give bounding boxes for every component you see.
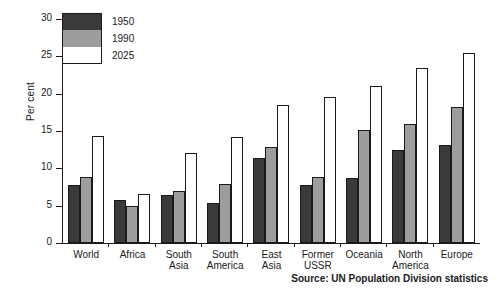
bar-1950 <box>392 150 404 243</box>
bar-2025 <box>324 97 336 243</box>
x-axis-label: Europe <box>434 249 480 271</box>
y-tick: 20 <box>56 94 62 95</box>
bar-1950 <box>207 203 219 243</box>
y-tick: 0 <box>56 243 62 244</box>
x-tick <box>201 243 202 247</box>
legend-label: 1950 <box>112 16 134 27</box>
legend-label: 1990 <box>112 33 134 44</box>
y-tick-label: 10 <box>41 161 52 172</box>
x-axis-label: Former USSR <box>295 249 341 271</box>
x-tick <box>386 243 387 247</box>
y-tick-label: 0 <box>46 236 52 247</box>
bar-group <box>341 19 387 243</box>
bar-1990 <box>404 124 416 243</box>
bar-1990 <box>126 206 138 243</box>
x-axis-label: Africa <box>109 249 155 271</box>
y-tick-label: 15 <box>41 124 52 135</box>
bar-group <box>295 19 341 243</box>
x-tick <box>294 243 295 247</box>
bar-group <box>248 19 294 243</box>
y-tick-label: 25 <box>41 49 52 60</box>
x-tick <box>155 243 156 247</box>
bar-1950 <box>253 158 265 243</box>
bar-1990 <box>219 184 231 243</box>
bar-2025 <box>416 68 428 243</box>
x-axis-labels: WorldAfricaSouth AsiaSouth AmericaEast A… <box>63 249 480 271</box>
bar-1950 <box>68 185 80 243</box>
bar-2025 <box>138 194 150 243</box>
bar-group <box>156 19 202 243</box>
source-note: Source: UN Population Division statistic… <box>291 273 488 284</box>
y-tick-label: 30 <box>41 12 52 23</box>
bar-group <box>434 19 480 243</box>
bar-1990 <box>312 177 324 243</box>
x-axis-label: North America <box>387 249 433 271</box>
x-axis-label: Oceania <box>341 249 387 271</box>
bar-group <box>202 19 248 243</box>
chart-figure: Per cent 051015202530 WorldAfricaSouth A… <box>0 0 496 292</box>
x-axis-label: South Asia <box>156 249 202 271</box>
bar-1950 <box>161 195 173 243</box>
legend-swatch-1990 <box>62 30 102 47</box>
legend-item: 1990 <box>62 30 134 47</box>
bar-1990 <box>173 191 185 243</box>
bar-1950 <box>300 185 312 243</box>
chart-legend: 195019902025 <box>62 13 134 64</box>
x-axis-line <box>62 243 480 244</box>
bar-1950 <box>346 178 358 243</box>
y-tick: 15 <box>56 131 62 132</box>
bar-1990 <box>358 130 370 243</box>
x-tick <box>108 243 109 247</box>
bar-1950 <box>439 145 451 243</box>
bar-2025 <box>370 86 382 243</box>
y-tick: 5 <box>56 206 62 207</box>
bar-2025 <box>185 153 197 243</box>
y-tick-label: 20 <box>41 87 52 98</box>
y-axis-label: Per cent <box>25 52 36 152</box>
bar-1990 <box>80 177 92 243</box>
bar-2025 <box>92 136 104 243</box>
legend-swatch-1950 <box>62 13 102 30</box>
x-tick <box>247 243 248 247</box>
bar-2025 <box>231 137 243 243</box>
bar-1990 <box>451 107 463 243</box>
x-axis-label: East Asia <box>248 249 294 271</box>
bar-1950 <box>114 200 126 243</box>
bar-2025 <box>277 105 289 243</box>
y-tick-label: 5 <box>46 199 52 210</box>
legend-label: 2025 <box>112 50 134 61</box>
x-axis-label: World <box>63 249 109 271</box>
legend-item: 2025 <box>62 47 134 64</box>
bar-2025 <box>463 53 475 243</box>
y-tick: 10 <box>56 168 62 169</box>
legend-swatch-2025 <box>62 47 102 64</box>
x-tick <box>340 243 341 247</box>
bar-group <box>387 19 433 243</box>
x-axis-label: South America <box>202 249 248 271</box>
bar-1990 <box>265 147 277 243</box>
legend-item: 1950 <box>62 13 134 30</box>
x-tick <box>433 243 434 247</box>
